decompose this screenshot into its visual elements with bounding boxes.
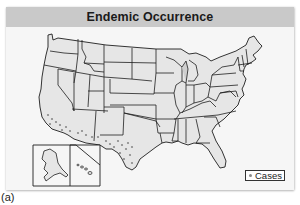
map-area: Cases — [6, 27, 294, 190]
inset-frame — [33, 145, 100, 186]
figure-header: Endemic Occurrence — [6, 7, 294, 27]
figure-caption: (a) — [1, 191, 14, 203]
us-map — [6, 27, 294, 190]
figure-title: Endemic Occurrence — [87, 10, 214, 24]
legend-label-cases: Cases — [255, 171, 282, 181]
dot-icon — [249, 174, 252, 177]
map-legend: Cases — [245, 170, 285, 181]
figure-panel: Endemic Occurrence — [6, 7, 294, 190]
